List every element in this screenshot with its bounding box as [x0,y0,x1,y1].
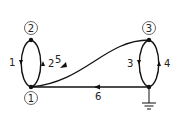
arrow-edge-2-icon [41,61,45,66]
edge-label-2: 2 [48,58,54,69]
svg-text:3: 3 [146,23,152,34]
ground-icon [142,87,156,109]
edge-label-1: 1 [9,57,15,68]
graph-diagram: 1 2 3 4 5 6 2 1 3 [0,0,180,115]
junction-node-1 [29,85,33,89]
arrow-edge-6-icon [94,85,100,90]
arrow-edge-3-icon [137,60,141,65]
junction-node-2 [29,38,33,42]
node-label-3: 3 [143,22,156,35]
edge-3 [139,40,149,87]
arrow-edge-4-icon [157,61,161,66]
edge-label-5: 5 [55,54,61,65]
edge-1 [21,40,31,87]
svg-text:2: 2 [28,23,34,34]
svg-text:1: 1 [28,93,34,104]
edge-label-3: 3 [127,58,133,69]
edge-2 [31,40,41,87]
edge-4 [149,40,159,87]
node-label-2: 2 [25,22,38,35]
node-label-1: 1 [25,92,38,105]
junction-node-3 [147,38,151,42]
junction-node-ground [147,85,151,89]
edge-label-6: 6 [95,91,101,102]
arrow-edge-1-icon [19,60,23,65]
edge-label-4: 4 [164,58,170,69]
